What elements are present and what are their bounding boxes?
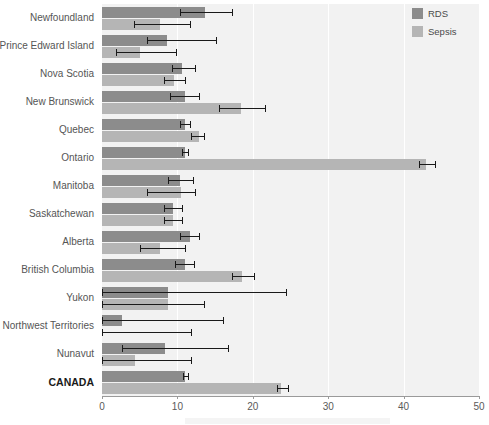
bar-group — [102, 315, 479, 338]
error-bar-cap — [193, 177, 194, 184]
bar-rds — [102, 287, 479, 298]
error-bar-cap — [265, 105, 266, 112]
bar-rds — [102, 231, 479, 242]
bar-rds — [102, 63, 479, 74]
error-bar — [102, 360, 192, 361]
error-bar-cap — [164, 77, 165, 84]
error-bar-cap — [102, 289, 103, 296]
bar-rect — [102, 259, 185, 270]
bar-sepsis — [102, 327, 479, 338]
category-axis-labels: NewfoundlandPrince Edward IslandNova Sco… — [0, 4, 98, 396]
error-bar — [102, 320, 224, 321]
bar-rect — [102, 119, 185, 130]
error-bar-cap — [180, 121, 181, 128]
error-bar-cap — [182, 205, 183, 212]
gridline — [479, 4, 480, 396]
error-bar — [180, 124, 191, 125]
bar-rect — [102, 371, 185, 382]
bar-rect — [102, 271, 242, 282]
error-bar-cap — [176, 49, 177, 56]
bar-rect — [102, 215, 173, 226]
category-label-quebec: Quebec — [59, 124, 94, 136]
category-label-british-columbia: British Columbia — [21, 264, 94, 276]
bar-group — [102, 91, 479, 114]
error-bar — [102, 332, 192, 333]
bar-rect — [102, 203, 173, 214]
error-bar-cap — [195, 65, 196, 72]
bar-sepsis — [102, 299, 479, 310]
error-bar-cap — [116, 49, 117, 56]
error-bar — [175, 264, 195, 265]
error-bar — [164, 220, 184, 221]
bar-sepsis — [102, 103, 479, 114]
bar-rect — [102, 131, 199, 142]
error-bar-cap — [182, 217, 183, 224]
category-label-new-brunswick: New Brunswick — [26, 96, 94, 108]
error-bar-cap — [254, 273, 255, 280]
category-label-nunavut: Nunavut — [57, 348, 94, 360]
bar-rect — [102, 231, 190, 242]
error-bar-cap — [204, 133, 205, 140]
category-label-ontario: Ontario — [61, 152, 94, 164]
error-bar-cap — [228, 345, 229, 352]
error-bar-cap — [191, 329, 192, 336]
error-bar — [134, 24, 191, 25]
error-bar-cap — [134, 21, 135, 28]
error-bar-cap — [168, 177, 169, 184]
error-bar — [164, 80, 187, 81]
bar-group — [102, 119, 479, 142]
x-tick-mark — [253, 396, 254, 399]
category-label-prince-edward-island: Prince Edward Island — [0, 40, 94, 52]
error-bar-cap — [286, 289, 287, 296]
error-bar-cap — [194, 261, 195, 268]
error-bar-cap — [170, 93, 171, 100]
error-bar-cap — [182, 149, 183, 156]
bar-rds — [102, 343, 479, 354]
error-bar-cap — [164, 205, 165, 212]
error-bar-cap — [216, 37, 217, 44]
x-tick-mark — [328, 396, 329, 399]
error-bar-cap — [191, 357, 192, 364]
bar-sepsis — [102, 355, 479, 366]
bar-group — [102, 259, 479, 282]
error-bar-cap — [175, 261, 176, 268]
bar-sepsis — [102, 75, 479, 86]
legend-item-sepsis[interactable]: Sepsis — [412, 26, 484, 37]
bar-sepsis — [102, 47, 479, 58]
error-bar-cap — [219, 105, 220, 112]
bar-rds — [102, 259, 479, 270]
bar-group — [102, 147, 479, 170]
square-swatch-icon — [412, 26, 423, 37]
bar-sepsis — [102, 271, 479, 282]
category-label-yukon: Yukon — [66, 292, 94, 304]
error-bar-cap — [277, 385, 278, 392]
bar-rds — [102, 315, 479, 326]
x-tick-label: 40 — [398, 401, 409, 412]
category-label-nova-scotia: Nova Scotia — [40, 68, 94, 80]
error-bar-cap — [180, 9, 181, 16]
error-bar-cap — [172, 65, 173, 72]
error-bar — [191, 136, 205, 137]
x-tick-mark — [102, 396, 103, 399]
category-label-saskatchewan: Saskatchewan — [29, 208, 94, 220]
bar-rds — [102, 371, 479, 382]
error-bar — [219, 108, 266, 109]
error-bar-cap — [102, 317, 103, 324]
error-bar-cap — [232, 9, 233, 16]
error-bar — [168, 180, 194, 181]
bar-sepsis — [102, 243, 479, 254]
bar-rds — [102, 147, 479, 158]
error-bar — [102, 292, 287, 293]
error-bar — [122, 348, 229, 349]
error-bar-cap — [180, 233, 181, 240]
category-label-canada: CANADA — [49, 376, 95, 388]
plot-area — [102, 4, 479, 396]
x-tick-label: 50 — [473, 401, 484, 412]
error-bar — [182, 152, 189, 153]
x-tick-label: 30 — [323, 401, 334, 412]
legend-item-rds[interactable]: RDS — [412, 8, 484, 19]
error-bar-cap — [190, 21, 191, 28]
error-bar-cap — [223, 317, 224, 324]
error-bar — [170, 96, 200, 97]
error-bar-cap — [195, 189, 196, 196]
